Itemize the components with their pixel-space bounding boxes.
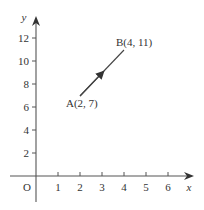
y-tick-label: 2 — [24, 147, 30, 159]
point-b-label: B(4, 11) — [116, 36, 153, 49]
x-tick-labels: 1 2 3 4 5 6 x O — [23, 181, 192, 193]
vector-ab — [80, 50, 124, 96]
x-tick-label: 6 — [165, 181, 171, 193]
point-a-label: A(2, 7) — [66, 97, 98, 110]
y-tick-labels: 2 4 6 8 10 12 y — [18, 11, 30, 159]
y-tick-label: 6 — [24, 101, 30, 113]
y-tick-label: 4 — [24, 124, 30, 136]
y-ticks — [32, 38, 36, 153]
x-axis-label: x — [186, 181, 192, 193]
x-tick-label: 1 — [55, 181, 61, 193]
x-ticks — [58, 172, 168, 176]
x-tick-label: 5 — [143, 181, 149, 193]
y-axis-label: y — [21, 11, 27, 23]
y-tick-label: 8 — [24, 78, 30, 90]
y-tick-label: 10 — [18, 55, 30, 67]
y-tick-label: 12 — [18, 32, 29, 44]
x-tick-label: 4 — [121, 181, 127, 193]
x-tick-label: 3 — [99, 181, 105, 193]
y-axis — [32, 16, 40, 202]
origin-label: O — [23, 181, 31, 193]
coordinate-plane: 1 2 3 4 5 6 x O 2 4 6 8 10 12 y A(2, 7) … — [0, 0, 204, 210]
x-tick-label: 2 — [77, 181, 83, 193]
vector-direction-arrow-icon — [80, 72, 103, 96]
